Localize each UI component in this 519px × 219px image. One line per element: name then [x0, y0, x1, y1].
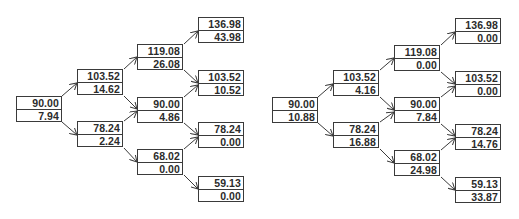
node-value: 0.00: [456, 32, 500, 44]
node-price: 59.13: [456, 178, 500, 191]
node-price: 68.02: [395, 151, 439, 164]
node-value: 0.00: [456, 85, 500, 97]
node-value: 24.98: [395, 164, 439, 176]
tree-node-uud: 103.52 0.00: [455, 71, 501, 97]
node-value: 7.84: [395, 111, 439, 123]
node-value: 33.87: [456, 191, 500, 203]
node-value: 10.88: [273, 111, 317, 123]
node-price: 136.98: [456, 19, 500, 32]
node-value: 0.00: [395, 59, 439, 71]
right-tree-arrows: [0, 0, 519, 219]
node-price: 90.00: [273, 98, 317, 111]
tree-node-down: 78.24 16.88: [333, 122, 379, 148]
node-price: 119.08: [395, 46, 439, 59]
tree-node-ddd: 59.13 33.87: [455, 177, 501, 203]
tree-node-up-down: 90.00 7.84: [394, 97, 440, 123]
node-value: 14.76: [456, 138, 500, 150]
right-binomial-tree: 90.00 10.88 103.52 4.16 78.24 16.88 119.…: [0, 0, 519, 219]
tree-node-uuu: 136.98 0.00: [455, 18, 501, 44]
node-value: 4.16: [334, 84, 378, 96]
node-price: 103.52: [456, 72, 500, 85]
tree-node-udd: 78.24 14.76: [455, 124, 501, 150]
node-price: 90.00: [395, 98, 439, 111]
node-value: 16.88: [334, 136, 378, 148]
node-price: 78.24: [456, 125, 500, 138]
node-price: 103.52: [334, 71, 378, 84]
tree-node-down-down: 68.02 24.98: [394, 150, 440, 176]
tree-node-root: 90.00 10.88: [272, 97, 318, 123]
tree-node-up-up: 119.08 0.00: [394, 45, 440, 71]
node-price: 78.24: [334, 123, 378, 136]
tree-node-up: 103.52 4.16: [333, 70, 379, 96]
